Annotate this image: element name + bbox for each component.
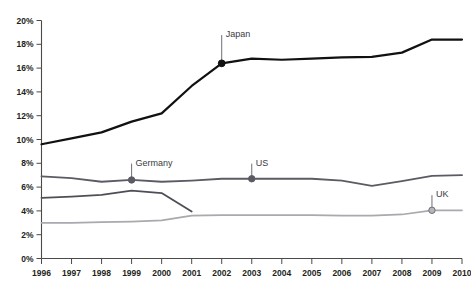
y-axis-tick-label: 10% [16, 135, 33, 145]
chart-plot-area: 0%2%4%6%8%10%12%14%16%18%20% 19961997199… [0, 0, 471, 290]
y-axis-tick-label: 4% [21, 206, 34, 216]
x-axis-tick-label: 1999 [122, 268, 141, 278]
data-point-marker-germany [128, 177, 134, 183]
x-axis-tick-label: 2001 [182, 268, 201, 278]
x-axis-tick-label: 2003 [242, 268, 261, 278]
x-axis-tick-label: 1997 [62, 268, 81, 278]
x-axis-tick-label: 2002 [212, 268, 231, 278]
series-line-japan [42, 40, 463, 145]
line-chart: 0%2%4%6%8%10%12%14%16%18%20% 19961997199… [0, 0, 471, 290]
series-line-uk [42, 210, 463, 222]
series-label-us: US [256, 158, 269, 168]
data-point-marker-us [249, 176, 255, 182]
x-axis-tick-label: 2000 [152, 268, 171, 278]
x-axis-tick-label: 2008 [392, 268, 411, 278]
series-label-germany: Germany [136, 158, 174, 168]
x-axis-tick-label: 2005 [302, 268, 321, 278]
data-point-marker-uk [429, 207, 435, 213]
x-axis-tick-label: 2010 [453, 268, 471, 278]
y-axis: 0%2%4%6%8%10%12%14%16%18%20% [16, 16, 41, 264]
y-axis-tick-label: 8% [21, 158, 34, 168]
y-axis-tick-label: 2% [21, 230, 34, 240]
series-annotations: JapanUSGermanyUK [128, 29, 448, 213]
x-axis-tick-label: 1996 [32, 268, 51, 278]
y-axis-tick-label: 6% [21, 182, 34, 192]
x-axis-tick-label: 1998 [92, 268, 111, 278]
x-axis-tick-label: 2009 [423, 268, 442, 278]
x-axis: 1996199719981999200020012002200320042005… [32, 259, 471, 278]
y-axis-tick-label: 12% [16, 111, 33, 121]
y-axis-tick-label: 14% [16, 87, 33, 97]
series-label-japan: Japan [226, 29, 251, 39]
x-axis-tick-label: 2006 [332, 268, 351, 278]
x-axis-tick-label: 2007 [362, 268, 381, 278]
data-point-marker-japan [218, 60, 225, 67]
y-axis-tick-label: 0% [21, 254, 34, 264]
x-axis-tick-label: 2004 [272, 268, 291, 278]
series-line-germany [42, 191, 192, 212]
series-lines [42, 40, 463, 223]
y-axis-tick-label: 18% [16, 39, 33, 49]
y-axis-tick-label: 20% [16, 16, 33, 26]
series-label-uk: UK [436, 189, 449, 199]
y-axis-tick-label: 16% [16, 63, 33, 73]
